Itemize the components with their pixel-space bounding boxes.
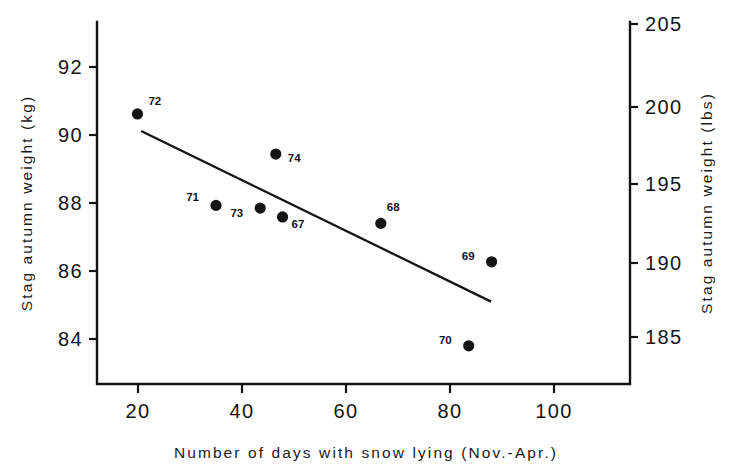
right-tick-label-205: 205 <box>645 13 683 35</box>
data-point: 68 <box>375 201 400 229</box>
y-axis-title-left: Stag autumn weight (kg) <box>18 95 35 311</box>
left-axis-tick-labels: 92 90 88 86 84 <box>58 56 83 350</box>
data-point: 74 <box>270 148 301 164</box>
left-tick-label-90: 90 <box>58 124 83 146</box>
data-point-label: 68 <box>387 201 400 213</box>
data-point-marker <box>277 211 288 222</box>
data-point-marker <box>255 203 266 214</box>
right-tick-label-200: 200 <box>645 96 683 118</box>
left-tick-label-84: 84 <box>58 328 83 350</box>
data-point-marker <box>463 340 474 351</box>
left-tick-label-88: 88 <box>58 192 83 214</box>
data-point-marker <box>270 148 281 159</box>
scatter-plot: 92 90 88 86 84 205 200 195 190 185 <box>0 0 732 472</box>
data-point: 72 <box>132 95 161 120</box>
right-tick-label-195: 195 <box>645 173 683 195</box>
data-point-label: 71 <box>186 191 199 203</box>
x-tick-label-20: 20 <box>125 400 150 422</box>
x-tick-label-100: 100 <box>535 400 573 422</box>
figure-container: 92 90 88 86 84 205 200 195 190 185 <box>0 0 732 472</box>
data-points-layer: 7274717367686970 <box>132 95 497 351</box>
y-axis-title-right: Stag autumn weight (lbs) <box>698 92 715 314</box>
axes-frame <box>97 22 630 384</box>
x-tick-label-80: 80 <box>437 400 462 422</box>
data-point-marker <box>486 256 497 267</box>
data-point: 67 <box>277 211 304 230</box>
data-point: 69 <box>462 250 497 268</box>
data-point: 71 <box>186 191 221 211</box>
data-point-marker <box>210 200 221 211</box>
left-tick-label-92: 92 <box>58 56 83 78</box>
regression-line <box>141 131 491 302</box>
data-point-label: 69 <box>462 250 475 262</box>
data-point-label: 74 <box>288 152 301 164</box>
data-point-marker <box>375 218 386 229</box>
right-tick-label-190: 190 <box>645 252 683 274</box>
data-point-label: 73 <box>230 207 243 219</box>
data-point-marker <box>132 108 143 119</box>
x-axis-tick-labels: 20 40 60 80 100 <box>125 400 572 422</box>
data-point-label: 70 <box>439 334 452 346</box>
data-point-label: 67 <box>292 218 305 230</box>
x-axis-title: Number of days with snow lying (Nov.-Apr… <box>174 444 558 461</box>
data-point-label: 72 <box>148 95 161 107</box>
x-axis-ticks <box>138 384 554 393</box>
data-point: 73 <box>230 203 265 220</box>
x-tick-label-60: 60 <box>333 400 358 422</box>
left-tick-label-86: 86 <box>58 260 83 282</box>
right-axis-tick-labels: 205 200 195 190 185 <box>645 13 683 348</box>
data-point: 70 <box>439 334 474 352</box>
x-tick-label-40: 40 <box>229 400 254 422</box>
right-tick-label-185: 185 <box>645 326 683 348</box>
